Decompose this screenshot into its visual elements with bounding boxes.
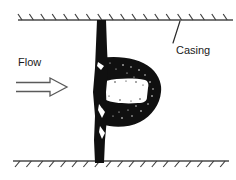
casing-label: Casing: [176, 44, 210, 56]
casing-flow-diagram: Flow Casing: [0, 0, 236, 180]
flow-label: Flow: [18, 56, 41, 68]
cavity-void: [103, 79, 149, 104]
figure-root: Flow Casing: [0, 0, 236, 180]
